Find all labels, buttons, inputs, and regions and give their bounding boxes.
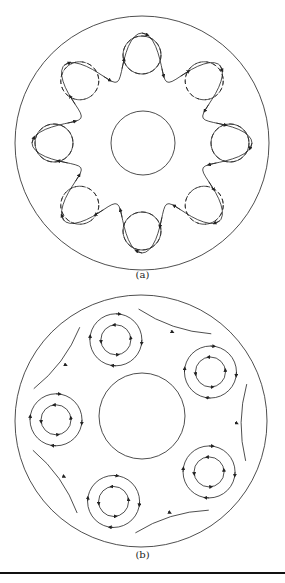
- panel-b-vortices: [30, 309, 247, 533]
- panel-b-diagram: [15, 295, 267, 547]
- panel-a-outer-boundary: [15, 16, 269, 270]
- figure-canvas: [0, 0, 285, 583]
- panel-b-inner-cylinder: [99, 373, 185, 459]
- bottom-rule: [0, 572, 285, 574]
- panel-a-diagram: [15, 16, 269, 270]
- panel-a-vortices: [32, 33, 252, 253]
- panel-a-label: (a): [0, 269, 285, 280]
- panel-a-inner-cylinder: [111, 111, 175, 175]
- panel-b-label: (b): [0, 549, 285, 560]
